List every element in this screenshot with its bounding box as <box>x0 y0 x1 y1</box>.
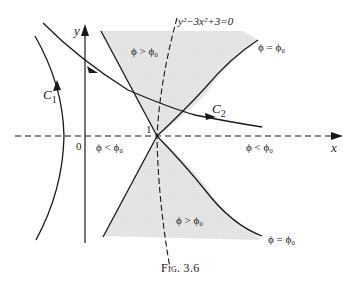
y-axis-label: y <box>74 24 80 37</box>
lower-boundary-label: ϕ = ϕ₀ <box>268 234 295 245</box>
c1-label: C1 <box>43 88 57 105</box>
x-axis-arrow-icon <box>331 132 343 140</box>
c2-label: C2 <box>212 102 226 119</box>
figure-caption: Fig. 3.6 <box>161 262 200 274</box>
origin-label: 0 <box>76 141 82 152</box>
saddle-point-label: 1 <box>146 124 152 135</box>
curve-c1 <box>35 36 64 240</box>
region-top-label: ϕ > ϕ₀ <box>131 46 158 57</box>
shaded-region-upper <box>100 31 258 136</box>
region-right-label: ϕ < ϕ₀ <box>246 142 273 153</box>
x-axis-label: x <box>331 141 337 154</box>
region-bottom-label: ϕ > ϕ₀ <box>176 215 203 226</box>
dashed-curve-label: y²−3x²+3=0 <box>178 16 233 27</box>
upper-boundary-label: ϕ = ϕ₀ <box>258 42 285 53</box>
diagram-canvas <box>0 0 352 284</box>
c2-direction-arrow-icon-1 <box>87 66 98 73</box>
y-axis-arrow-icon <box>81 24 89 36</box>
region-left-label: ϕ < ϕ₀ <box>96 142 123 153</box>
